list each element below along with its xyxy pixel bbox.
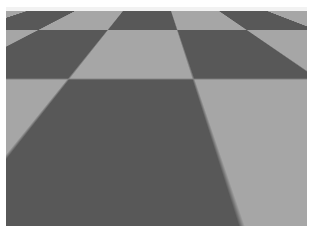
margin-top (0, 0, 313, 7)
reflective-sphere (87, 34, 218, 186)
margin-bottom (0, 226, 313, 233)
margin-right (307, 0, 313, 233)
rendered-image: A raytraced grey metallic sphere resting… (0, 0, 313, 233)
image-caption: A raytraced grey metallic sphere resting… (0, 0, 1, 1)
render-viewport (6, 7, 307, 226)
sphere-contact-occlusion (87, 34, 218, 186)
